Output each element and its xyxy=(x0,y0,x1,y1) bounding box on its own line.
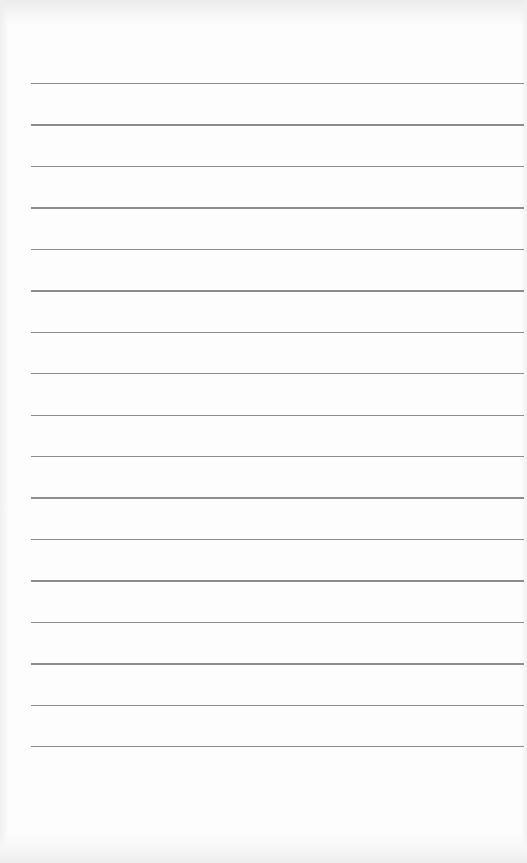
ruled-line xyxy=(31,415,524,416)
ruled-line xyxy=(31,83,524,84)
ruled-line xyxy=(31,539,524,540)
ruled-line xyxy=(31,663,524,664)
ruled-line xyxy=(31,373,524,374)
ruled-line xyxy=(31,746,524,747)
ruled-line xyxy=(31,497,524,498)
ruled-line xyxy=(31,705,524,706)
ruled-line xyxy=(31,124,524,125)
ruled-line xyxy=(31,207,524,208)
scan-shadow-bottom xyxy=(0,833,527,863)
ruled-line xyxy=(31,290,524,291)
lined-paper-sheet xyxy=(0,0,527,863)
ruled-line xyxy=(31,456,524,457)
ruled-line xyxy=(31,249,524,250)
scan-shadow-left xyxy=(0,0,8,863)
ruled-line xyxy=(31,622,524,623)
scan-shadow-right xyxy=(521,0,527,863)
ruled-line xyxy=(31,332,524,333)
scan-shadow-top xyxy=(0,0,527,26)
ruled-line xyxy=(31,580,524,581)
ruled-line xyxy=(31,166,524,167)
